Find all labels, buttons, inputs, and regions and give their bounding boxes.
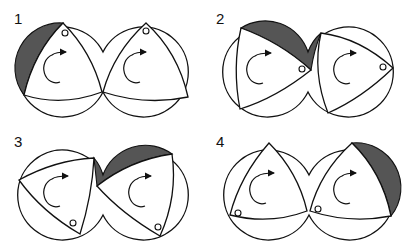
port-circle-icon: [380, 64, 386, 70]
port-circle-icon: [143, 28, 149, 34]
panel-3: 3: [14, 133, 188, 240]
port-circle-icon: [299, 66, 305, 72]
port-circle-icon: [155, 224, 161, 230]
panel-4: 4: [216, 133, 401, 240]
rotor-right: [318, 33, 393, 113]
panel-label-1: 1: [14, 10, 22, 27]
rotor-right: [103, 23, 188, 101]
rotor-left: [230, 143, 307, 219]
port-circle-icon: [70, 220, 76, 226]
panel-1: 1: [14, 10, 188, 117]
panel-label-4: 4: [216, 133, 224, 150]
port-circle-icon: [235, 210, 241, 216]
port-circle-icon: [62, 30, 68, 36]
panel-label-3: 3: [14, 133, 22, 150]
panel-label-2: 2: [216, 10, 224, 27]
port-circle-icon: [315, 206, 321, 212]
rotary-engine-diagram: 1 2 3: [0, 0, 411, 248]
rotor-left: [19, 158, 94, 234]
panel-2: 2: [216, 10, 393, 117]
